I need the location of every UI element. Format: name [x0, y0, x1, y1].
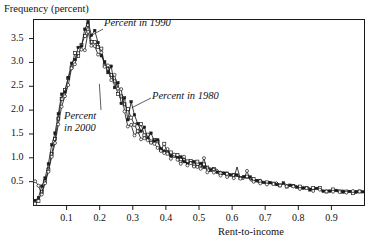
- marker: [143, 134, 146, 137]
- marker: [140, 122, 143, 125]
- marker: [136, 130, 139, 133]
- marker: [34, 199, 37, 202]
- y-tick-label: 1.0: [2, 151, 24, 162]
- marker: [93, 41, 96, 44]
- y-tick-label: 1.5: [2, 127, 24, 138]
- marker: [196, 165, 199, 168]
- marker: [136, 122, 139, 125]
- y-tick-label: 3.0: [2, 55, 24, 66]
- marker: [80, 45, 83, 48]
- marker: [173, 153, 176, 156]
- series-line: [35, 32, 363, 195]
- marker: [73, 63, 76, 66]
- marker: [63, 95, 66, 98]
- marker: [97, 41, 100, 44]
- marker: [50, 155, 53, 158]
- marker: [325, 190, 328, 193]
- marker: [37, 199, 40, 202]
- marker: [239, 177, 242, 180]
- marker: [103, 65, 106, 68]
- marker: [338, 191, 341, 194]
- marker: [120, 102, 123, 105]
- marker: [219, 174, 222, 177]
- marker: [60, 93, 63, 96]
- marker: [179, 162, 182, 165]
- x-tick-label: 0.7: [253, 212, 277, 223]
- marker: [47, 170, 50, 173]
- x-tick-label: 0.5: [187, 212, 211, 223]
- marker: [193, 160, 196, 163]
- marker: [100, 51, 103, 54]
- marker: [140, 138, 143, 141]
- marker: [259, 182, 262, 185]
- marker: [80, 48, 83, 51]
- marker: [292, 185, 295, 188]
- marker: [232, 177, 235, 180]
- marker: [199, 167, 202, 170]
- marker: [272, 183, 275, 186]
- leader-2000: [99, 84, 101, 110]
- marker: [47, 163, 50, 166]
- marker: [140, 130, 143, 133]
- marker: [90, 44, 93, 47]
- marker: [163, 152, 166, 155]
- marker: [143, 126, 146, 129]
- x-tick-label: 0.2: [88, 212, 112, 223]
- marker: [44, 182, 47, 185]
- marker: [212, 171, 215, 174]
- marker: [40, 193, 43, 196]
- plot-canvas: [0, 0, 374, 244]
- y-tick-label: 0.5: [2, 175, 24, 186]
- marker: [285, 185, 288, 188]
- x-tick-label: 0.8: [286, 212, 310, 223]
- x-tick-label: 0.3: [121, 212, 145, 223]
- marker: [77, 52, 80, 55]
- marker: [153, 142, 156, 145]
- marker: [226, 176, 229, 179]
- leader-1990: [90, 29, 103, 36]
- y-tick-label: 3.5: [2, 32, 24, 43]
- marker: [113, 86, 116, 89]
- marker: [87, 30, 90, 33]
- marker: [110, 65, 113, 68]
- marker: [57, 123, 60, 126]
- marker: [351, 189, 354, 192]
- marker: [37, 196, 40, 199]
- marker: [50, 143, 53, 146]
- marker: [54, 142, 57, 145]
- marker: [130, 100, 133, 103]
- marker: [206, 171, 209, 174]
- x-tick-label: 0.9: [319, 212, 343, 223]
- marker: [153, 140, 156, 143]
- marker: [183, 155, 186, 158]
- marker: [312, 189, 315, 192]
- marker: [113, 73, 116, 76]
- marker: [100, 47, 103, 50]
- marker: [67, 84, 70, 87]
- marker: [130, 123, 133, 126]
- marker: [54, 132, 57, 135]
- marker: [156, 146, 159, 149]
- marker: [305, 187, 308, 190]
- leader-1980: [132, 98, 151, 108]
- marker: [236, 174, 239, 177]
- y-tick-label: 2.0: [2, 103, 24, 114]
- marker: [130, 116, 133, 119]
- marker: [133, 113, 136, 116]
- marker: [40, 185, 43, 188]
- marker: [34, 202, 37, 205]
- marker: [342, 191, 345, 194]
- marker: [116, 92, 119, 95]
- marker: [60, 105, 63, 108]
- marker: [186, 164, 189, 167]
- marker: [203, 166, 206, 169]
- marker: [345, 191, 348, 194]
- marker: [77, 46, 80, 49]
- marker: [252, 180, 255, 183]
- marker: [70, 67, 73, 70]
- x-tick-label: 0.6: [220, 212, 244, 223]
- marker: [120, 88, 123, 91]
- marker: [37, 184, 40, 187]
- marker: [106, 64, 109, 67]
- marker: [146, 139, 149, 142]
